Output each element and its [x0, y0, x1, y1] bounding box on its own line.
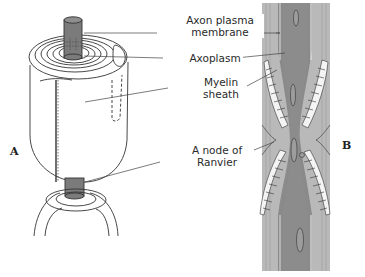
label-line: Axoplasm	[189, 52, 241, 64]
panel-b-drawing	[260, 3, 330, 271]
label-line: Axon plasma	[178, 14, 262, 26]
panel-letter-a: A	[10, 145, 19, 158]
label-line: Myelin	[197, 76, 245, 88]
label-line: membrane	[178, 26, 262, 38]
label-axon-plasma-membrane: Axon plasma membrane	[176, 14, 264, 38]
myelinated-axon-diagram	[0, 0, 365, 277]
label-node-of-ranvier: A node of Ranvier	[182, 144, 252, 168]
label-line: sheath	[197, 88, 245, 100]
label-line: A node of	[184, 144, 250, 156]
node-of-ranvier-axon	[65, 178, 84, 199]
label-axoplasm: Axoplasm	[187, 52, 243, 64]
label-line: Ranvier	[184, 156, 250, 168]
label-myelin-sheath: Myelin sheath	[195, 76, 247, 100]
axon-core-top	[64, 17, 82, 60]
panel-letter-b: B	[342, 139, 351, 152]
